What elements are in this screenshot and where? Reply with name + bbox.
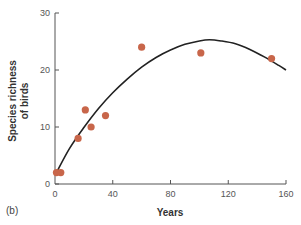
data-point [82,106,89,113]
x-tick-label: 0 [52,189,57,199]
x-tick-label: 40 [108,189,118,199]
data-point [87,123,94,130]
scatter-chart: 010203004080120160 Years Species richnes… [0,0,301,225]
data-point [75,135,82,142]
axis-labels: Years Species richness of birds (b) [6,60,184,218]
y-axis-label-line1: Species richness [7,60,18,142]
axes: 010203004080120160 [40,8,294,199]
data-point [102,112,109,119]
y-tick-label: 20 [40,65,50,75]
x-tick-label: 120 [221,189,236,199]
x-axis-label: Years [157,207,184,218]
y-tick-label: 10 [40,122,50,132]
x-tick-label: 80 [165,189,175,199]
x-tick-label: 160 [278,189,293,199]
panel-label: (b) [6,205,18,216]
data-points [53,44,275,177]
data-point [197,49,204,56]
y-axis-label-line2: of birds [19,82,30,119]
fitted-curve [56,40,286,173]
data-point [268,55,275,62]
fitted-curve-line [56,40,286,173]
y-tick-label: 0 [45,179,50,189]
y-tick-label: 30 [40,8,50,18]
data-point [57,169,64,176]
data-point [138,44,145,51]
